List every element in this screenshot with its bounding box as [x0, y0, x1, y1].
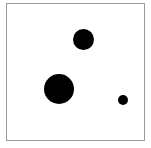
scatter-point-large-circle	[44, 74, 74, 104]
scatter-point-small-circle	[118, 95, 128, 105]
plot-area	[7, 4, 144, 140]
figure-root	[0, 0, 151, 148]
plot-frame	[6, 3, 145, 141]
scatter-point-top-circle	[73, 29, 94, 50]
